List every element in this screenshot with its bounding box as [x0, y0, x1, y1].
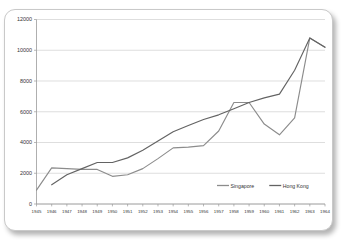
legend-label: Hong Kong — [283, 183, 309, 189]
x-axis-label: 1952 — [138, 209, 148, 214]
y-axis-label: 4000 — [20, 139, 32, 145]
x-axis-label: 1962 — [290, 209, 300, 214]
x-axis-label: 1963 — [305, 209, 315, 214]
series-line-singapore — [37, 38, 326, 190]
x-axis-label: 1951 — [123, 209, 133, 214]
chart-legend: SingaporeHong Kong — [217, 183, 309, 189]
x-axis-label: 1964 — [320, 209, 330, 214]
y-axis-labels-group: 020004000600080001000012000 — [17, 16, 32, 207]
x-axis-label: 1948 — [77, 209, 87, 214]
x-axis-labels-group: 1945194619471948194919501951195219531954… — [32, 209, 331, 214]
x-axis-label: 1946 — [47, 209, 57, 214]
chart-plot-area: 020004000600080001000012000 194519461947… — [5, 10, 334, 232]
x-axis-label: 1953 — [153, 209, 163, 214]
x-axis-label: 1954 — [168, 209, 178, 214]
chart-card: 020004000600080001000012000 194519461947… — [4, 9, 333, 231]
x-axis-label: 1961 — [275, 209, 285, 214]
x-axis-label: 1949 — [92, 209, 102, 214]
y-axis-label: 8000 — [20, 78, 32, 84]
x-axis-label: 1950 — [108, 209, 118, 214]
x-axis-label: 1959 — [244, 209, 254, 214]
y-axis-label: 2000 — [20, 170, 32, 176]
x-axis-label: 1945 — [32, 209, 42, 214]
gridlines-group — [37, 20, 326, 205]
x-axis-label: 1955 — [183, 209, 193, 214]
y-axis-label: 10000 — [17, 47, 32, 53]
series-line-hong-kong — [52, 38, 325, 185]
y-axis-label: 12000 — [17, 16, 32, 22]
line-chart: 020004000600080001000012000 194519461947… — [5, 10, 334, 232]
y-axis-label: 6000 — [20, 109, 32, 115]
y-axis-label: 0 — [29, 201, 32, 207]
legend-label: Singapore — [231, 183, 255, 189]
x-axis-label: 1957 — [214, 209, 224, 214]
x-axis-label: 1960 — [259, 209, 269, 214]
chart-title-strip — [0, 0, 341, 9]
x-axis-label: 1956 — [199, 209, 209, 214]
data-series-group — [37, 38, 326, 190]
x-axis-label: 1947 — [62, 209, 72, 214]
x-axis-label: 1958 — [229, 209, 239, 214]
